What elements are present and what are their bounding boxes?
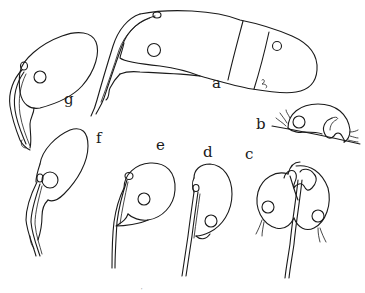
- panel-label-d: d: [203, 145, 213, 160]
- panel-d-drawing: [182, 164, 232, 276]
- stray-mark: ': [141, 287, 142, 293]
- figure-drawing: [0, 0, 365, 293]
- panel-a-drawing: [91, 11, 317, 116]
- panel-b-drawing: [272, 104, 360, 144]
- panel-c-drawing: [256, 162, 329, 278]
- panel-label-a: a: [212, 76, 221, 91]
- biological-figure: a b c d e f g ': [0, 0, 365, 293]
- panel-f-drawing: [26, 129, 88, 256]
- panel-e-drawing: [112, 163, 175, 268]
- panel-label-g: g: [64, 92, 74, 107]
- panel-label-f: f: [96, 131, 102, 146]
- panel-label-e: e: [156, 138, 165, 153]
- panel-label-c: c: [245, 147, 253, 162]
- panel-label-b: b: [256, 117, 266, 132]
